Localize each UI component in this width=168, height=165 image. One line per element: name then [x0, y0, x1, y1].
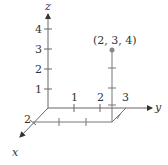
coordinate-diagram: z y x 4 3 2 1 1 2 3 2 (2, 3, 4): [0, 0, 168, 165]
diagram-canvas: z y x 4 3 2 1 1 2 3 2 (2, 3, 4): [0, 0, 168, 165]
x-tick-label-2: 2: [24, 113, 31, 126]
y-tick-label-2: 2: [97, 91, 104, 104]
y-tick-label-1: 1: [71, 91, 78, 104]
z-axis-label: z: [44, 0, 51, 13]
point-marker: [110, 48, 115, 53]
z-tick-label-2: 2: [35, 63, 42, 76]
z-tick-label-4: 4: [35, 23, 42, 36]
y-tick-label-3: 3: [122, 91, 129, 104]
x-axis-label: x: [12, 146, 19, 159]
y-axis-label: y: [154, 101, 162, 114]
z-tick-label-1: 1: [35, 83, 42, 96]
point-label: (2, 3, 4): [93, 34, 137, 47]
z-tick-label-3: 3: [35, 43, 42, 56]
